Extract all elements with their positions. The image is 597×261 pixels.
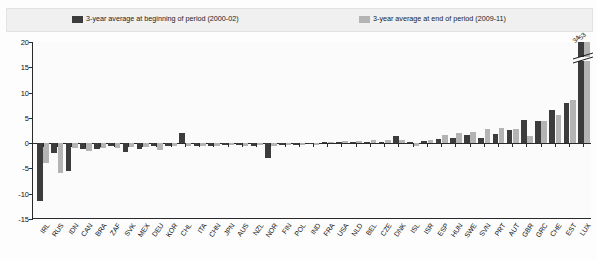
y-axis-tick-label: -10: [18, 189, 29, 198]
chart-figure: 3-year average at beginning of period (2…: [0, 0, 597, 261]
y-axis-tick-label: 10: [21, 88, 29, 97]
y-axis-tick-label: -15: [18, 215, 29, 224]
y-axis-tick-label: -5: [22, 164, 29, 173]
y-axis-tick-label: 20: [21, 38, 29, 47]
y-axis-tick-label: 15: [21, 63, 29, 72]
annotation-layer: 3453: [32, 0, 591, 261]
